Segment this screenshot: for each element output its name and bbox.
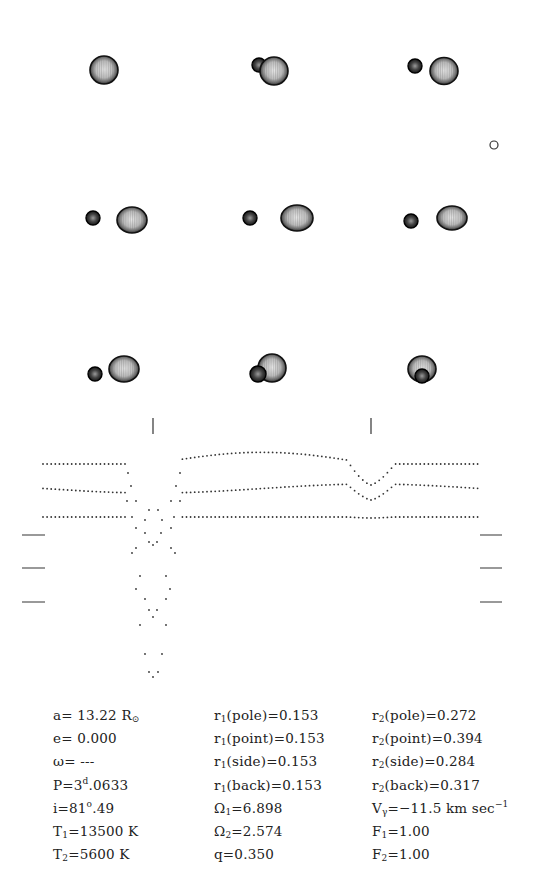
param-col2-row: r1(pole)=0.153 [214,704,325,727]
orbit-view-0-1 [252,57,288,85]
light-curve-2 [42,483,478,501]
param-col2-row: r1(point)=0.153 [214,727,325,750]
param-col2-row: Ω2=2.574 [214,820,325,843]
secondary-star-icon [408,59,422,73]
light-curve-3 [42,516,478,519]
param-col3-row: F1=1.00 [372,820,509,843]
param-col2-row: r1(back)=0.153 [214,774,325,797]
param-col1-row: T2=5600 K [53,843,140,866]
light-curve-1 [42,451,478,486]
orbit-view-0-2 [408,58,458,85]
scale-circle-icon [490,141,498,149]
param-col1-row: i=81o.49 [53,797,140,820]
orbit-views [86,56,498,383]
orbit-view-2-0 [88,356,139,382]
param-col1-row: a= 13.22 R⊙ [53,704,140,727]
params-column-secondary-radii: r2(pole)=0.272r2(point)=0.394r2(side)=0.… [372,704,509,866]
orbit-view-0-0 [90,56,118,84]
param-col1-row: P=3d.0633 [53,774,140,797]
phase-markers [153,418,371,434]
secondary-star-icon [404,214,418,228]
param-col3-row: r2(pole)=0.272 [372,704,509,727]
primary-eclipse-points [126,472,181,678]
param-col1-row: T1=13500 K [53,820,140,843]
param-col2-row: Ω1=6.898 [214,797,325,820]
param-col2-row: r1(side)=0.153 [214,750,325,773]
secondary-star-icon [243,211,257,225]
secondary-star-icon [86,211,100,225]
orbit-view-1-0 [86,207,147,233]
reference-ticks [22,535,502,602]
param-col3-row: r2(point)=0.394 [372,727,509,750]
param-col3-row: r2(back)=0.317 [372,774,509,797]
secondary-star-icon [250,366,266,382]
orbit-view-1-1 [243,205,313,231]
orbit-view-2-1 [250,354,286,382]
param-col1-row: e= 0.000 [53,727,140,750]
param-col2-row: q=0.350 [214,843,325,866]
light-curves [42,451,478,677]
param-col1-row: ω= --- [53,750,140,773]
param-col3-row: r2(side)=0.284 [372,750,509,773]
orbit-view-1-2 [404,206,467,230]
binary-star-figure [0,0,557,690]
param-col3-row: Vγ=−11.5 km sec−1 [372,797,509,820]
secondary-star-icon [88,367,102,381]
param-col3-row: F2=1.00 [372,843,509,866]
params-column-orbit: a= 13.22 R⊙e= 0.000ω= ---P=3d.0633i=81o.… [53,704,140,866]
orbit-view-2-2 [408,356,436,383]
secondary-star-icon [415,369,429,383]
params-column-primary-radii: r1(pole)=0.153r1(point)=0.153r1(side)=0.… [214,704,325,866]
